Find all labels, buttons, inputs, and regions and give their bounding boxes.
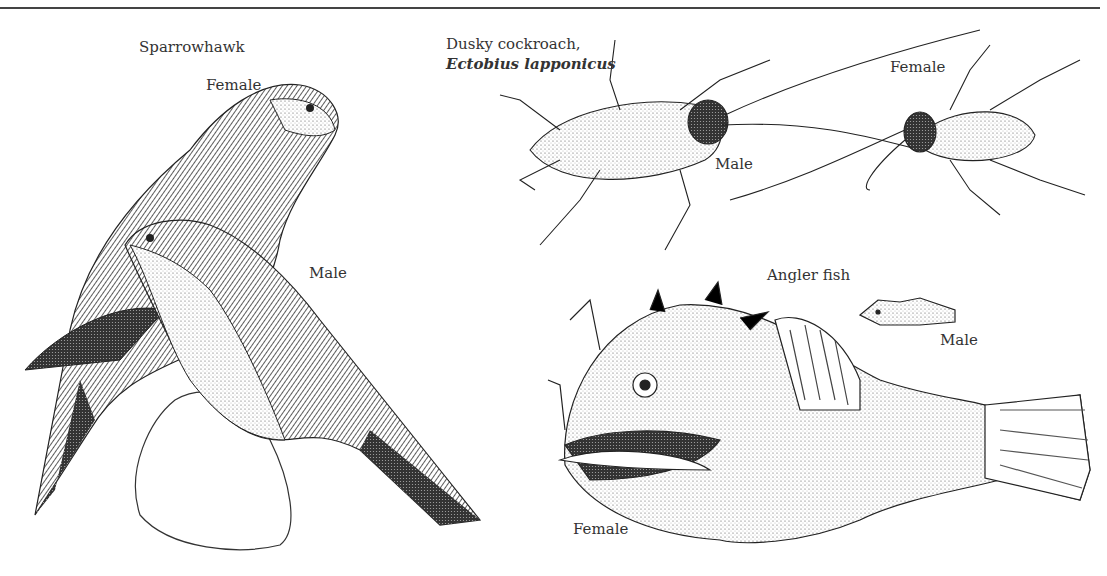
cockroach-female-label: Female	[890, 58, 945, 76]
cockroach-male-label: Male	[715, 155, 753, 173]
anglerfish-female-label: Female	[573, 520, 628, 538]
anglerfish-illustration	[548, 282, 1090, 543]
sparrowhawk-female-label: Female	[206, 76, 261, 94]
cockroach-title: Dusky cockroach,	[446, 35, 581, 53]
illustration-canvas	[0, 0, 1107, 576]
sparrowhawk-male-label: Male	[309, 264, 347, 282]
cockroach-species: Ectobius lapponicus	[446, 55, 616, 73]
anglerfish-title: Angler fish	[767, 266, 850, 284]
sparrowhawk-illustration	[25, 84, 480, 549]
sparrowhawk-title: Sparrowhawk	[139, 38, 245, 56]
anglerfish-male-label: Male	[940, 331, 978, 349]
